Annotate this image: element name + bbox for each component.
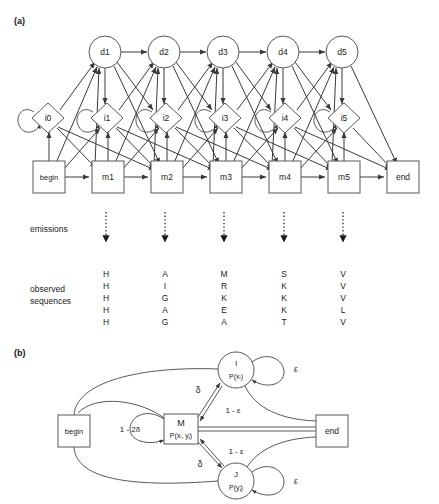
node-b-match-label: M (177, 418, 185, 428)
node-m5-label: m5 (338, 172, 350, 182)
node-d4-label: d4 (278, 47, 288, 57)
edge-M-to-I (198, 383, 220, 417)
observed-sequences-label-2: sequences (30, 296, 71, 306)
seq-cell: H (103, 269, 109, 279)
node-d5-label: d5 (337, 47, 347, 57)
node-d5[interactable]: d5 (326, 36, 358, 68)
node-m1[interactable]: m1 (92, 161, 124, 193)
node-b-match-sublabel: P(xᵢ, yⱼ) (170, 432, 192, 440)
seq-cell: H (103, 317, 109, 327)
panel-b-nodes: begin end M P(xᵢ, yⱼ) I P(xᵢ) J P(yⱼ) (58, 352, 348, 499)
node-b-end-label: end (325, 426, 339, 436)
edge-i3-d4 (237, 62, 273, 110)
seq-cell: G (162, 293, 169, 303)
seq-cell: M (220, 269, 227, 279)
emission-arrows (106, 212, 343, 240)
seq-cell: V (340, 269, 346, 279)
node-b-insert-y-sublabel: P(yⱼ) (229, 484, 243, 492)
node-end[interactable]: end (387, 161, 419, 193)
seq-cell: V (340, 293, 346, 303)
insert-state-nodes: i0 i1 i2 i3 i4 i5 (32, 103, 360, 133)
selfloop-I (252, 357, 284, 385)
node-i1[interactable]: i1 (91, 103, 123, 133)
node-i0[interactable]: i0 (32, 103, 64, 133)
node-m3[interactable]: m3 (210, 161, 242, 193)
edge-i2-d3 (178, 62, 213, 110)
label-i-self-eps: ε (294, 364, 298, 374)
node-i5-label: i5 (341, 113, 348, 123)
node-i5[interactable]: i5 (328, 103, 360, 133)
seq-cell: L (341, 305, 346, 315)
seq-cell: G (162, 317, 169, 327)
seq-cell: I (164, 281, 166, 291)
edge-begin-to-J (74, 447, 218, 483)
edge-i4-d5 (297, 62, 332, 110)
edge-J-to-M (200, 439, 224, 466)
node-b-insert-x-sublabel: P(xᵢ) (229, 373, 243, 381)
panel-b-edge-labels: 1 - 2δ δ 1 - ε δ 1 - ε ε ε (120, 364, 298, 486)
node-b-begin[interactable]: begin (58, 415, 90, 447)
node-d1-label: d1 (100, 47, 110, 57)
node-d2-label: d2 (159, 47, 169, 57)
label-m-self-loop: 1 - 2δ (120, 425, 141, 434)
node-b-match[interactable]: M P(xᵢ, yⱼ) (164, 414, 198, 444)
seq-cell: A (221, 317, 227, 327)
node-begin[interactable]: begin (33, 161, 65, 193)
observed-sequences-label-1: observed (30, 284, 65, 294)
selfloop-J (252, 467, 284, 495)
panel-b-label: (b) (14, 348, 26, 358)
node-d4[interactable]: d4 (267, 36, 299, 68)
node-b-insert-x-label: I (235, 359, 237, 368)
node-d3[interactable]: d3 (207, 36, 239, 68)
node-begin-label: begin (40, 173, 58, 182)
node-i3[interactable]: i3 (209, 103, 241, 133)
node-i0-label: i0 (45, 113, 52, 123)
node-b-insert-y[interactable]: J P(yⱼ) (218, 463, 254, 499)
node-m1-label: m1 (102, 172, 114, 182)
seq-cell: R (221, 281, 227, 291)
seq-cell: K (281, 293, 287, 303)
label-m-to-i-delta: δ (196, 385, 201, 395)
node-i3-label: i3 (222, 113, 229, 123)
panel-a-label: (a) (14, 16, 25, 26)
edge-J-to-end (247, 437, 316, 467)
node-i2[interactable]: i2 (150, 103, 182, 133)
seq-cell: K (281, 305, 287, 315)
node-d1[interactable]: d1 (89, 36, 121, 68)
seq-cell: H (103, 305, 109, 315)
node-i2-label: i2 (163, 113, 170, 123)
edge-d5-end (351, 66, 397, 164)
seq-cell: H (103, 293, 109, 303)
seq-cell: V (340, 317, 346, 327)
label-j-to-m-eps: 1 - ε (228, 447, 244, 456)
node-i1-label: i1 (104, 113, 111, 123)
node-b-begin-label: begin (65, 427, 83, 436)
edge-I-to-M (200, 386, 222, 421)
edge-I-to-end (245, 386, 316, 421)
seq-cell: K (221, 293, 227, 303)
figure-canvas: (a) (0, 0, 439, 504)
edge-i1-d2 (119, 62, 154, 110)
node-m2[interactable]: m2 (151, 161, 183, 193)
node-m5[interactable]: m5 (328, 161, 360, 193)
seq-cell: H (103, 281, 109, 291)
node-m3-label: m3 (220, 172, 232, 182)
label-m-to-j-delta: δ (198, 459, 203, 469)
edge-begin-to-M (78, 401, 164, 418)
node-m4[interactable]: m4 (269, 161, 301, 193)
edge-i0-d1 (60, 62, 95, 110)
node-b-end[interactable]: end (316, 415, 348, 447)
node-b-insert-x[interactable]: I P(xᵢ) (218, 352, 254, 388)
seq-cell: K (281, 281, 287, 291)
seq-cell: S (281, 269, 287, 279)
node-m4-label: m4 (279, 172, 291, 182)
node-d3-label: d3 (218, 47, 228, 57)
observed-sequences-grid: H H H H H A I G A G M R K E A S K K K T … (103, 269, 346, 327)
emissions-label: emissions (30, 224, 68, 234)
node-d2[interactable]: d2 (148, 36, 180, 68)
node-i4-label: i4 (282, 113, 289, 123)
seq-cell: A (162, 305, 168, 315)
label-i-to-m-eps: 1 - ε (225, 406, 241, 415)
node-m2-label: m2 (161, 172, 173, 182)
profile-hmm-figure: (a) (0, 0, 439, 504)
